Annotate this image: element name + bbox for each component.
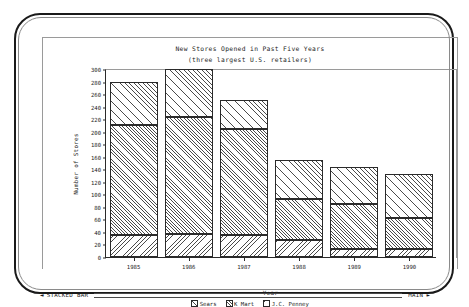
y-tick-mark bbox=[103, 70, 106, 71]
stacked-bar[interactable] bbox=[220, 100, 268, 257]
y-tick-mark bbox=[103, 107, 106, 108]
bar-segment[interactable] bbox=[110, 235, 158, 257]
x-tick-label: 1987 bbox=[237, 264, 250, 270]
bar-segment[interactable] bbox=[385, 218, 433, 249]
x-tick-mark bbox=[134, 257, 135, 261]
bar-segment[interactable] bbox=[330, 167, 378, 204]
y-tick-mark bbox=[103, 245, 106, 246]
y-tick-mark bbox=[103, 207, 106, 208]
chart-subtitle: (three largest U.S. retailers) bbox=[42, 56, 458, 63]
legend-label: K Mart bbox=[234, 301, 254, 307]
y-tick-mark bbox=[103, 82, 106, 83]
status-right-label: MAIN bbox=[408, 292, 423, 298]
status-divider-rule bbox=[94, 293, 402, 298]
legend-item[interactable]: K Mart bbox=[226, 300, 255, 307]
bar-segment[interactable] bbox=[220, 129, 268, 235]
bar-segment[interactable] bbox=[220, 100, 268, 129]
status-right-arrow-icon[interactable]: ► bbox=[426, 292, 430, 298]
x-tick-label: 1990 bbox=[403, 264, 416, 270]
x-tick-mark bbox=[299, 257, 300, 261]
plot-right-rule bbox=[456, 69, 457, 258]
y-tick-mark bbox=[103, 120, 106, 121]
y-tick-mark bbox=[103, 232, 106, 233]
bar-segment[interactable] bbox=[165, 117, 213, 234]
bar-segment[interactable] bbox=[165, 69, 213, 117]
bar-segment[interactable] bbox=[385, 174, 433, 218]
legend-swatch-icon bbox=[263, 300, 270, 307]
y-axis-title: Number of Stores bbox=[73, 133, 79, 195]
legend-swatch-icon bbox=[226, 300, 233, 307]
bar-segment[interactable] bbox=[330, 204, 378, 250]
legend-label: Sears bbox=[200, 301, 217, 307]
stacked-bar[interactable] bbox=[165, 69, 213, 257]
y-tick-mark bbox=[103, 182, 106, 183]
bar-segment[interactable] bbox=[165, 234, 213, 257]
bar-segment[interactable] bbox=[275, 160, 323, 199]
y-tick-mark bbox=[103, 95, 106, 96]
legend-swatch-icon bbox=[191, 300, 198, 307]
y-tick-mark bbox=[103, 258, 106, 259]
bar-segment[interactable] bbox=[220, 235, 268, 257]
status-bar: ◄ STACKED BAR MAIN ► bbox=[40, 289, 430, 301]
y-tick-mark bbox=[103, 170, 106, 171]
x-tick-mark bbox=[244, 257, 245, 261]
bar-segment[interactable] bbox=[110, 82, 158, 126]
x-tick-label: 1989 bbox=[348, 264, 361, 270]
stacked-bar[interactable] bbox=[385, 174, 433, 257]
y-tick-mark bbox=[103, 220, 106, 221]
y-tick-mark bbox=[103, 132, 106, 133]
chart-title: New Stores Opened in Past Five Years bbox=[42, 45, 458, 52]
x-tick-mark bbox=[189, 257, 190, 261]
bar-segment[interactable] bbox=[275, 240, 323, 257]
status-left-arrow-icon[interactable]: ◄ bbox=[40, 292, 44, 298]
status-left-label: STACKED BAR bbox=[47, 292, 89, 298]
bar-segment[interactable] bbox=[275, 199, 323, 240]
y-tick-mark bbox=[103, 145, 106, 146]
x-tick-label: 1986 bbox=[182, 264, 195, 270]
chart-legend: SearsK MartJ.C. Penney bbox=[42, 300, 458, 307]
bar-segment[interactable] bbox=[330, 249, 378, 257]
legend-label: J.C. Penney bbox=[272, 301, 309, 307]
bar-segment[interactable] bbox=[110, 125, 158, 235]
x-tick-label: 1988 bbox=[292, 264, 305, 270]
stacked-bar[interactable] bbox=[110, 82, 158, 257]
bar-segment[interactable] bbox=[385, 249, 433, 257]
y-tick-mark bbox=[103, 195, 106, 196]
x-tick-mark bbox=[409, 257, 410, 261]
x-tick-mark bbox=[354, 257, 355, 261]
chart-page: New Stores Opened in Past Five Years (th… bbox=[42, 37, 458, 295]
legend-item[interactable]: J.C. Penney bbox=[263, 300, 309, 307]
x-tick-label: 1985 bbox=[127, 264, 140, 270]
monitor-bezel: New Stores Opened in Past Five Years (th… bbox=[14, 13, 454, 294]
legend-item[interactable]: Sears bbox=[191, 300, 216, 307]
stacked-bar[interactable] bbox=[275, 160, 323, 257]
y-tick-mark bbox=[103, 157, 106, 158]
stacked-bar[interactable] bbox=[330, 167, 378, 257]
plot-area: 0204060801001201401601802002202402602803… bbox=[105, 70, 436, 258]
